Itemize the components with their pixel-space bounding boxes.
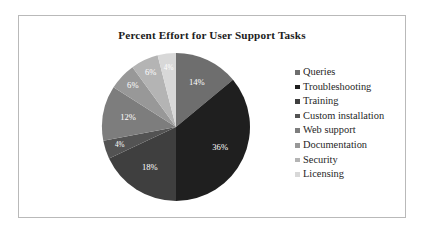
legend-item[interactable]: Custom installation <box>295 109 407 124</box>
legend-item-label: Security <box>303 155 338 165</box>
legend-item-label: Custom installation <box>303 111 384 121</box>
legend-swatch-icon <box>295 128 300 133</box>
legend-item[interactable]: Security <box>295 153 407 168</box>
pie-chart[interactable]: 14%36%18%4%12%6%6%4% <box>101 52 251 202</box>
legend-item[interactable]: Troubleshooting <box>295 80 407 95</box>
legend-item-label: Licensing <box>303 169 344 179</box>
legend-swatch-icon <box>295 70 300 75</box>
chart-frame: Percent Effort for User Support Tasks 14… <box>18 15 406 218</box>
pie-slice-label: 4% <box>115 141 125 149</box>
pie-slice-label: 18% <box>142 162 158 172</box>
legend-swatch-icon <box>295 143 300 148</box>
legend-item-label: Troubleshooting <box>303 82 371 92</box>
pie-slice-label: 4% <box>164 64 174 72</box>
legend-item[interactable]: Documentation <box>295 138 407 153</box>
legend-item-label: Documentation <box>303 140 367 150</box>
pie-svg: 14%36%18%4%12%6%6%4% <box>101 52 251 202</box>
pie-slice-label: 36% <box>212 142 228 152</box>
legend-swatch-icon <box>295 85 300 90</box>
legend-item[interactable]: Queries <box>295 65 407 80</box>
pie-slice-label: 6% <box>127 80 138 90</box>
legend-swatch-icon <box>295 99 300 104</box>
pie-slice-label: 12% <box>120 112 136 122</box>
legend-swatch-icon <box>295 172 300 177</box>
pie-slice-label: 6% <box>145 67 156 77</box>
legend-item[interactable]: Web support <box>295 123 407 138</box>
pie-slice-label: 14% <box>189 77 205 87</box>
chart-legend: QueriesTroubleshootingTrainingCustom ins… <box>295 65 407 182</box>
legend-item[interactable]: Training <box>295 94 407 109</box>
legend-item[interactable]: Licensing <box>295 167 407 182</box>
legend-item-label: Web support <box>303 125 356 135</box>
legend-swatch-icon <box>295 158 300 163</box>
chart-title: Percent Effort for User Support Tasks <box>19 29 405 41</box>
legend-item-label: Training <box>303 96 338 106</box>
legend-item-label: Queries <box>303 67 335 77</box>
pie-slices <box>102 53 250 201</box>
legend-swatch-icon <box>295 114 300 119</box>
